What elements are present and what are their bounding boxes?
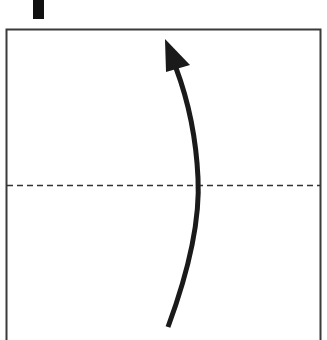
fold-diagram [0, 0, 327, 340]
fold-arrow-shaft [168, 68, 198, 327]
paper-outline [7, 30, 321, 340]
marker-block [33, 0, 44, 19]
arrow-head-icon [165, 39, 190, 72]
